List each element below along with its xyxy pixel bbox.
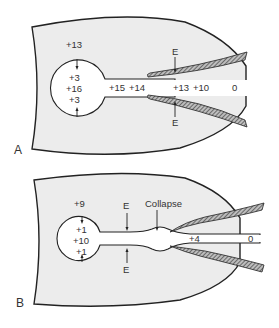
epp-marker-b-bottom: E <box>123 264 129 275</box>
collapse-label: Collapse <box>145 198 182 209</box>
airway-value-a-3: +13 <box>173 82 189 93</box>
epp-marker-a-top: E <box>172 46 178 57</box>
alveolar-value-a-bottom: +3 <box>69 94 80 105</box>
pleural-pressure-a: +13 <box>66 39 82 50</box>
alveolar-value-a-top: +3 <box>69 72 80 83</box>
alveolar-value-b-top: +1 <box>76 224 87 235</box>
panel-label-b: B <box>16 296 24 310</box>
alveolar-value-a-center: +16 <box>66 83 82 94</box>
alveolar-value-b-center: +10 <box>73 235 89 246</box>
airway-value-a-2: +14 <box>129 82 145 93</box>
epp-marker-a-bottom: E <box>172 117 178 128</box>
airway-value-b-2: 0 <box>248 233 253 244</box>
alveolar-value-b-bottom: +1 <box>76 246 87 257</box>
airway-value-a-1: +15 <box>109 82 125 93</box>
airway-value-b-1: +4 <box>189 233 200 244</box>
epp-marker-b-top: E <box>123 200 129 211</box>
airway-value-a-4: +10 <box>193 82 209 93</box>
airway-pressure-diagram: +13 +3 +16 +3 +15 +14 +13 +10 0 E E A +9… <box>0 0 279 328</box>
panel-label-a: A <box>14 143 22 157</box>
pleural-pressure-b: +9 <box>74 198 85 209</box>
airway-value-a-5: 0 <box>232 82 237 93</box>
panel-b <box>34 173 268 306</box>
